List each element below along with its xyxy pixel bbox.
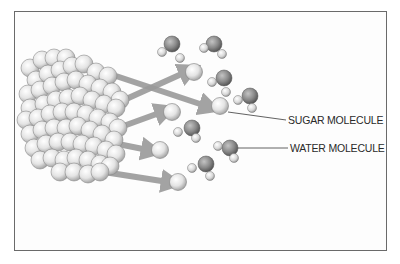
- hydrogen-atom: [158, 48, 167, 57]
- hydrogen-atom: [218, 50, 227, 59]
- hydrogen-atom: [200, 44, 209, 53]
- hydrogen-atom: [188, 164, 197, 173]
- sugar-molecule: [164, 104, 181, 121]
- leader-line-sugar-molecule: [228, 112, 286, 120]
- hydrogen-atom: [214, 142, 223, 151]
- sugar-molecule: [212, 98, 229, 115]
- hydrogen-atom: [208, 78, 217, 87]
- crystal-sugar-sphere: [91, 163, 109, 181]
- sugar-molecule: [170, 174, 187, 191]
- hydrogen-atom: [248, 104, 257, 113]
- hydrogen-atom: [230, 154, 239, 163]
- water-molecule: [208, 70, 233, 97]
- dissolving-diagram: [0, 0, 400, 264]
- hydrogen-atom: [234, 96, 243, 105]
- hydrogen-atom: [174, 128, 183, 137]
- oxygen-atom: [242, 88, 258, 104]
- sugar-molecule: [152, 142, 169, 159]
- water-molecule: [234, 88, 259, 113]
- oxygen-atom: [164, 36, 180, 52]
- hydrogen-atom: [206, 172, 215, 181]
- label-leader-lines: [228, 112, 288, 148]
- oxygen-atom: [198, 156, 214, 172]
- sugar-molecule: [186, 64, 203, 81]
- hydrogen-atom: [176, 54, 185, 63]
- water-molecule: [158, 36, 185, 63]
- oxygen-atom: [216, 70, 232, 86]
- water-molecule: [214, 140, 239, 163]
- water-molecule: [188, 156, 215, 181]
- water-molecule-label: WATER MOLECULE: [290, 142, 385, 154]
- hydrogen-atom: [222, 88, 231, 97]
- water-molecule: [174, 120, 201, 143]
- hydrogen-atom: [192, 134, 201, 143]
- sugar-crystal: [17, 49, 129, 183]
- water-molecule: [200, 36, 227, 59]
- sugar-molecule-label: SUGAR MOLECULE: [288, 114, 383, 126]
